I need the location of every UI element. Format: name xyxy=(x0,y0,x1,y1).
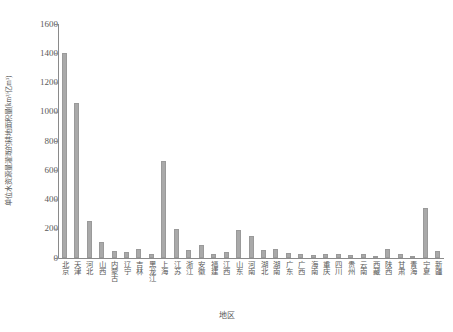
bar xyxy=(62,53,67,258)
x-axis-tick-label: 河南 xyxy=(247,260,255,274)
bar xyxy=(311,255,316,258)
x-axis-tick-label: 广西 xyxy=(297,260,305,274)
bar xyxy=(361,254,366,258)
bar xyxy=(261,250,266,258)
x-axis-tick-label: 江西 xyxy=(222,260,230,274)
bar xyxy=(348,255,353,258)
x-axis-tick-label: 广东 xyxy=(285,260,293,274)
x-axis-tick-label: 浙江 xyxy=(185,260,193,274)
x-axis-tick-label: 山西 xyxy=(98,260,106,274)
x-axis-tick-labels: 北京天津河北山西内蒙古辽宁吉林黑龙江上海江苏浙江安徽福建江西山东河南湖北湖南广东… xyxy=(58,259,444,309)
x-axis-tick-label: 贵州 xyxy=(347,260,355,274)
bar xyxy=(398,254,403,258)
x-axis-tick-label: 吉林 xyxy=(135,260,143,274)
x-axis-tick-label: 海南 xyxy=(309,260,317,274)
bar xyxy=(336,254,341,258)
bar xyxy=(174,229,179,258)
x-axis-tick-label: 陕西 xyxy=(384,260,392,274)
bar xyxy=(224,252,229,258)
x-axis-tick-label: 青海 xyxy=(409,260,417,274)
x-axis-tick-label: 河北 xyxy=(85,260,93,274)
x-axis-tick-label: 新疆 xyxy=(434,260,442,274)
plot-area xyxy=(58,24,444,258)
bar xyxy=(124,252,129,258)
bar xyxy=(323,254,328,258)
bar xyxy=(273,249,278,258)
x-axis-tick-label: 安徽 xyxy=(197,260,205,274)
bar xyxy=(136,249,141,258)
bar xyxy=(423,208,428,258)
x-axis-tick-label: 甘肃 xyxy=(397,260,405,274)
bar xyxy=(298,254,303,258)
bar xyxy=(186,250,191,258)
x-axis-title: 地区 xyxy=(0,309,453,320)
bar-chart: 单位水资源量灌溉的耕地面积量(km²/亿m³) 0200400600800100… xyxy=(0,0,453,332)
x-axis-tick-label: 云南 xyxy=(359,260,367,274)
x-axis-tick-label: 北京 xyxy=(60,260,68,274)
x-axis-tick-label: 山东 xyxy=(235,260,243,274)
x-axis-tick-label: 江苏 xyxy=(172,260,180,274)
x-axis-tick-label: 湖南 xyxy=(272,260,280,274)
x-axis-tick-label: 四川 xyxy=(334,260,342,274)
bar xyxy=(373,256,378,258)
bar xyxy=(286,253,291,258)
bar xyxy=(249,236,254,258)
bar xyxy=(99,242,104,258)
bar xyxy=(410,256,415,258)
x-axis-tick-label: 黑龙江 xyxy=(148,260,156,280)
x-axis-tick-label: 湖北 xyxy=(260,260,268,274)
bar xyxy=(87,221,92,258)
x-axis-tick-label: 西藏 xyxy=(372,260,380,274)
bar xyxy=(112,251,117,258)
bar xyxy=(149,254,154,258)
bar xyxy=(385,249,390,258)
x-axis-tick-label: 天津 xyxy=(73,260,81,274)
x-axis-tick-label: 上海 xyxy=(160,260,168,274)
x-axis-tick-label: 辽宁 xyxy=(123,260,131,274)
bar xyxy=(435,251,440,258)
bar xyxy=(161,161,166,258)
bar xyxy=(74,103,79,258)
bar xyxy=(199,245,204,258)
x-axis-tick-label: 重庆 xyxy=(322,260,330,274)
bar xyxy=(211,254,216,258)
x-axis-tick-label: 宁夏 xyxy=(422,260,430,274)
bar xyxy=(236,230,241,258)
x-axis-tick-label: 内蒙古 xyxy=(110,260,118,280)
x-axis-tick-label: 福建 xyxy=(210,260,218,274)
